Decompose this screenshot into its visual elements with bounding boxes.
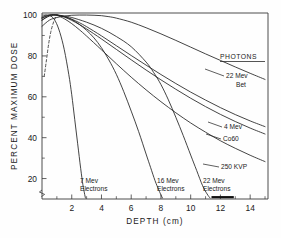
y-tick-labels: 20406080100 [23, 10, 37, 184]
photons-heading-label: PHOTONS [220, 53, 257, 60]
y-tick-label: 40 [28, 133, 38, 143]
curve-22-mev-electrons [42, 15, 210, 198]
curve-250-kvp-buildup [44, 15, 57, 76]
label-22mev-bet-line1: 22 Mev [226, 72, 248, 79]
label-16mev-electrons-line1: 16 Mev [157, 177, 179, 184]
x-tick-label: 6 [129, 203, 134, 213]
x-tick-label: 8 [159, 203, 164, 213]
x-axis-title: DEPTH (cm) [126, 217, 183, 226]
x-tick-label: 2 [69, 203, 74, 213]
label-16mev-electrons-line2: Electrons [157, 185, 185, 192]
x-tick-label: 14 [245, 203, 255, 213]
label-7mev-electrons-line1: 7 Mev [80, 177, 99, 184]
label-4mev: 4 Mev [224, 123, 243, 130]
label-22mev-electrons-line2: Electrons [203, 185, 231, 192]
x-tick-label: 10 [186, 203, 196, 213]
x-tick-labels: 2468101214 [69, 203, 255, 213]
label-22mev-electrons-line1: 22 Mev [203, 177, 225, 184]
plot-frame [42, 13, 268, 199]
y-tick-label: 100 [23, 10, 37, 20]
y-tick-label: 80 [28, 51, 38, 61]
leader-lines [203, 69, 224, 167]
curve-group [42, 15, 265, 198]
label-7mev-electrons-line2: Electrons [80, 185, 108, 192]
label-250kvp: 250 KVP [221, 163, 248, 170]
y-axis-ticks [42, 15, 47, 179]
label-22mev-bet-line2: Bet [236, 81, 246, 88]
chart-canvas: 20406080100 2468101214 PERCENT MAXIMUM D… [0, 0, 281, 238]
x-tick-label: 4 [99, 203, 104, 213]
y-tick-label: 20 [28, 174, 38, 184]
curve-4-mev [42, 15, 265, 127]
y-axis-title: PERCENT MAXIMUM DOSE [10, 42, 19, 170]
y-tick-label: 60 [28, 92, 38, 102]
dose-depth-chart: 20406080100 2468101214 PERCENT MAXIMUM D… [0, 0, 281, 238]
x-tick-label: 12 [216, 203, 226, 213]
curve-16-mev-electrons [42, 15, 162, 198]
label-co60: Co60 [223, 135, 239, 142]
